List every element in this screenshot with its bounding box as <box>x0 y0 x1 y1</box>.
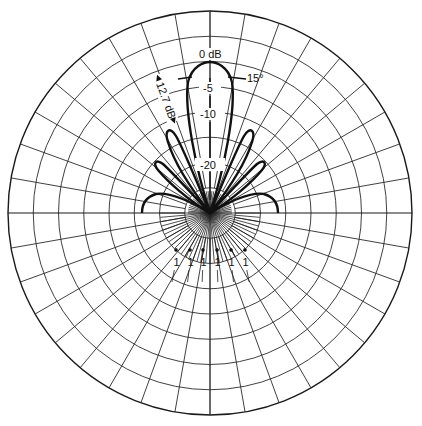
dense-radial-fan <box>160 191 260 263</box>
marker-dot <box>243 248 247 252</box>
grid-spoke <box>20 222 186 282</box>
zero-db-label: 0 dB <box>199 48 222 60</box>
grid-spoke <box>223 235 311 388</box>
marker-label: 1 <box>174 256 180 268</box>
grid-spoke <box>226 232 340 367</box>
grid-spoke <box>229 229 364 343</box>
polar-radiation-pattern: 0 dB -5 -10 -20 15° 12.7 dB 111111 <box>0 0 422 426</box>
grid-spoke <box>80 232 194 367</box>
grid-spoke <box>55 229 190 343</box>
grid-spoke <box>234 222 400 282</box>
grid-spoke <box>11 217 185 248</box>
marker-dot <box>215 248 219 252</box>
grid-spoke <box>80 58 194 193</box>
minus10-label: -10 <box>200 108 216 120</box>
marker-label: 1 <box>215 256 221 268</box>
marker-dot <box>201 248 205 252</box>
grid-spoke <box>35 112 188 200</box>
grid-spoke <box>232 226 385 314</box>
grid-spoke <box>223 38 311 191</box>
marker-label: 1 <box>188 256 194 268</box>
marker-dot <box>188 248 192 252</box>
grid-spoke <box>35 226 188 314</box>
grid-spoke <box>229 83 364 197</box>
grid-spoke <box>235 217 409 248</box>
minus20-label: -20 <box>200 159 216 171</box>
marker-label: 1 <box>201 256 207 268</box>
grid-spoke <box>109 38 197 191</box>
grid-spoke <box>219 23 279 189</box>
marker-dot <box>174 248 178 252</box>
marker-label: 1 <box>229 256 235 268</box>
minus5-label: -5 <box>203 82 213 94</box>
marker-label: 1 <box>243 256 249 268</box>
grid-spoke <box>232 112 385 200</box>
beamwidth-label: 15° <box>247 72 264 84</box>
sidelobe-level-label: 12.7 dB <box>154 80 178 120</box>
marker-dot <box>229 248 233 252</box>
grid-spoke <box>109 235 197 388</box>
